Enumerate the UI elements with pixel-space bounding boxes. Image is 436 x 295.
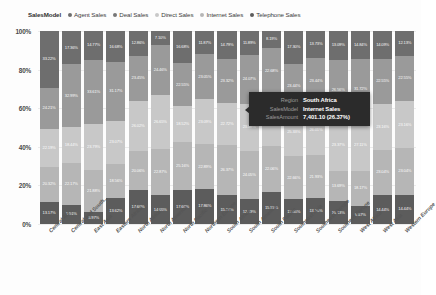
x-axis-tick[interactable]: Western Europe <box>394 226 416 294</box>
x-axis-tick[interactable]: South Africa <box>216 226 238 294</box>
bar-segment[interactable]: 14.79% <box>217 31 236 59</box>
bar-segment[interactable]: 24.05% <box>240 151 259 200</box>
bar-segment[interactable]: 8.19% <box>262 31 281 48</box>
bar-column[interactable]: 8.19%22.68%25.02%22.06%15.53% <box>260 31 282 224</box>
legend-label: Deal Sales <box>119 11 148 18</box>
bar-segment[interactable]: 33.61% <box>84 60 103 125</box>
bar-segment[interactable]: 20.32% <box>40 167 59 202</box>
bar-segment-label: 24.05% <box>243 173 256 177</box>
bar-segment[interactable]: 17.30% <box>284 31 303 64</box>
bar-segment[interactable]: 14.84% <box>351 31 370 59</box>
bar-column[interactable]: 16.68%22.55%18.52%25.16%17.66% <box>171 31 193 224</box>
bar-column[interactable]: 33.22%24.21%22.19%20.32%13.17% <box>38 31 60 224</box>
x-axis-tick[interactable]: West Africa <box>349 226 371 294</box>
bar-segment[interactable]: 24.46% <box>151 45 170 95</box>
bar-column[interactable]: 12.13%22.55%23.16%23.04%14.44% <box>394 31 416 224</box>
bar-segment[interactable]: 13.69% <box>329 171 348 201</box>
bar-segment[interactable]: 22.55% <box>373 59 392 104</box>
bar-segment[interactable]: 23.04% <box>373 150 392 196</box>
bar-column[interactable]: 17.30%23.44%25.33%22.66%13.05% <box>283 31 305 224</box>
bar-segment[interactable]: 7.10% <box>151 31 170 45</box>
bar-segment[interactable]: 23.07% <box>106 121 125 164</box>
bar-segment[interactable]: 22.17% <box>62 163 81 205</box>
bar-segment[interactable]: 22.55% <box>173 63 192 106</box>
x-axis-tick[interactable]: North Africa <box>127 226 149 294</box>
bar-segment[interactable]: 31.17% <box>106 62 125 120</box>
bar-segment[interactable]: 12.86% <box>129 31 148 56</box>
bar-segment[interactable]: 16.68% <box>106 31 125 62</box>
bar-column[interactable]: 17.36%32.99%18.44%22.17%9.91% <box>60 31 82 224</box>
x-axis-tick[interactable]: North Pacific <box>171 226 193 294</box>
bar-segment[interactable]: 26.02% <box>129 101 148 151</box>
x-axis-tick[interactable]: Central Afr... <box>38 226 60 294</box>
legend-item-internet-sales[interactable]: Internet Sales <box>200 11 243 18</box>
bar-segment[interactable]: 23.04% <box>395 148 414 195</box>
bar-column[interactable]: 11.89%24.07%23.09%24.05%12.19% <box>238 31 260 224</box>
bar-segment[interactable]: 18.56% <box>106 164 125 199</box>
bar-segment[interactable]: 22.87% <box>151 149 170 195</box>
bar-segment[interactable]: 22.19% <box>40 129 59 167</box>
bar-segment[interactable]: 16.68% <box>173 31 192 63</box>
x-axis-tick[interactable]: South America <box>238 226 260 294</box>
bar-segment[interactable]: 32.99% <box>62 64 81 127</box>
bar-column[interactable]: 14.09%22.55%23.16%23.04%14.44% <box>372 31 394 224</box>
x-axis-tick[interactable]: Northern Europe <box>194 226 216 294</box>
bar-segment[interactable]: 14.09% <box>373 31 392 59</box>
bar-segment[interactable]: 18.44% <box>62 127 81 162</box>
bar-column[interactable]: 14.84%31.72%27.11%18.17%9.67% <box>349 31 371 224</box>
bar-segment[interactable]: 11.87% <box>195 31 214 54</box>
bar-segment[interactable]: 22.89% <box>195 144 214 189</box>
x-axis-tick[interactable]: Central and South... <box>60 226 82 294</box>
bar-segment[interactable]: 33.22% <box>40 31 59 88</box>
bar-segment[interactable]: 17.36% <box>62 31 81 64</box>
legend-item-direct-sales[interactable]: Direct Sales <box>155 11 193 18</box>
bar-column[interactable]: 7.10%24.46%26.65%22.87%14.05% <box>149 31 171 224</box>
x-axis-tick[interactable]: Eastern Africa <box>105 226 127 294</box>
bar-segment[interactable]: 23.09% <box>195 99 214 144</box>
bar-segment[interactable]: 12.13% <box>395 31 414 56</box>
bar-column[interactable]: 16.68%31.17%23.07%18.56%13.62% <box>105 31 127 224</box>
bar-segment[interactable]: 26.37% <box>217 145 236 195</box>
legend-item-deal-sales[interactable]: Deal Sales <box>113 11 148 18</box>
bar-segment[interactable]: 23.32% <box>217 59 236 103</box>
bar-segment[interactable]: 22.72% <box>217 103 236 146</box>
bar-column[interactable]: 11.87%23.05%23.09%22.89%17.86% <box>194 31 216 224</box>
legend-item-telephone-sales[interactable]: Telephone Sales <box>250 11 300 18</box>
x-axis-tick[interactable]: West Asia <box>372 226 394 294</box>
bar-column[interactable]: 14.77%33.61%23.79%21.88%5.97% <box>82 31 104 224</box>
bar-segment[interactable]: 23.16% <box>373 104 392 150</box>
bar-column[interactable]: 13.09%26.56%23.37%13.69%10.13% <box>327 31 349 224</box>
bar-segment[interactable]: 13.09% <box>329 31 348 60</box>
bar-segment[interactable]: 20.06% <box>129 151 148 190</box>
bar-segment[interactable]: 23.16% <box>395 101 414 148</box>
bar-segment[interactable]: 22.66% <box>284 156 303 199</box>
x-axis-tick[interactable]: Southern Europe <box>327 226 349 294</box>
x-axis-tick[interactable]: East Asia <box>82 226 104 294</box>
bar-segment[interactable]: 26.65% <box>151 95 170 149</box>
bar-segment[interactable]: 23.79% <box>84 124 103 170</box>
bar-segment[interactable]: 23.05% <box>195 54 214 99</box>
x-axis-tick[interactable]: South Pacific <box>260 226 282 294</box>
y-axis: 100%80%60%40%20%0% <box>0 31 34 224</box>
x-axis-tick[interactable]: North America <box>149 226 171 294</box>
bar-segment[interactable]: 22.68% <box>262 48 281 95</box>
bar-column[interactable]: 14.79%23.32%22.72%26.37%15.27% <box>216 31 238 224</box>
x-axis-tick[interactable]: Southeast Asia <box>283 226 305 294</box>
bar-segment[interactable]: 23.37% <box>329 119 348 171</box>
bar-segment[interactable]: 14.77% <box>84 31 103 60</box>
x-axis-tick[interactable]: Southeast Europe <box>305 226 327 294</box>
bar-segment[interactable]: 13.73% <box>306 31 325 58</box>
bar-segment[interactable]: 24.21% <box>40 88 59 129</box>
bar-segment[interactable]: 25.16% <box>173 142 192 190</box>
bar-segment[interactable]: 23.45% <box>129 56 148 101</box>
bar-segment[interactable]: 27.11% <box>351 120 370 172</box>
bar-column[interactable]: 12.86%23.45%26.02%20.06%17.60% <box>127 31 149 224</box>
bar-segment[interactable]: 18.52% <box>173 106 192 142</box>
bar-segment[interactable]: 22.55% <box>395 56 414 102</box>
bar-segment[interactable]: 11.89% <box>240 31 259 55</box>
bar-segment[interactable]: 22.06% <box>262 146 281 192</box>
legend-item-agent-sales[interactable]: Agent Sales <box>68 11 106 18</box>
bar-column[interactable]: 13.73%23.44%26.01%21.93%13.05% <box>305 31 327 224</box>
bar-segment[interactable]: 21.93% <box>306 155 325 198</box>
bar-segment-label: 20.06% <box>132 169 145 173</box>
